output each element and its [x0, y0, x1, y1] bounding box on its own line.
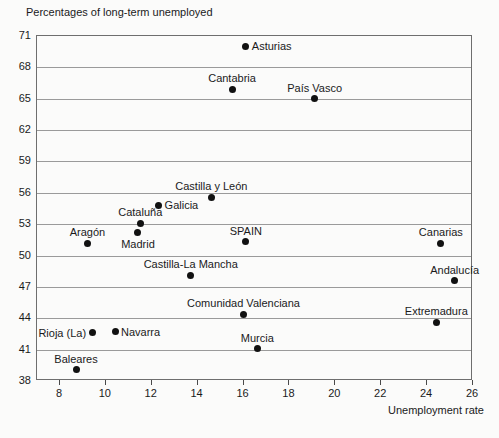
- y-axis-tick-label: 44: [3, 311, 31, 323]
- data-point[interactable]: [112, 328, 119, 335]
- y-axis-tick-labels: 384144475053565962656871: [0, 35, 31, 380]
- x-axis-tick-label: 10: [99, 387, 111, 399]
- data-point[interactable]: [311, 95, 318, 102]
- y-axis-tick-label: 50: [3, 249, 31, 261]
- x-axis-tick-label: 14: [191, 387, 203, 399]
- data-point-label: Aragón: [70, 226, 105, 238]
- x-axis-tick-mark: [243, 380, 244, 385]
- gridline: [37, 318, 471, 319]
- gridline: [37, 193, 471, 194]
- x-axis-tick-label: 16: [236, 387, 248, 399]
- data-point[interactable]: [242, 43, 249, 50]
- data-point-label: Comunidad Valenciana: [187, 297, 300, 309]
- x-axis-tick-label: 22: [374, 387, 386, 399]
- data-point[interactable]: [137, 220, 144, 227]
- x-axis-tick-label: 12: [145, 387, 157, 399]
- data-point-label: Cantabria: [208, 72, 256, 84]
- data-point-label: Asturias: [252, 40, 292, 52]
- x-axis-tick-mark: [380, 380, 381, 385]
- y-axis-tick-label: 71: [3, 29, 31, 41]
- data-point[interactable]: [433, 319, 440, 326]
- x-axis-tick-mark: [151, 380, 152, 385]
- data-point[interactable]: [437, 240, 444, 247]
- plot-area: AsturiasCantabriaPaís VascoCastilla y Le…: [36, 35, 472, 380]
- gridline: [37, 130, 471, 131]
- data-point-label: Navarra: [121, 326, 160, 338]
- data-point[interactable]: [134, 229, 141, 236]
- x-axis-tick-mark: [197, 380, 198, 385]
- x-axis-tick-label: 8: [56, 387, 62, 399]
- data-point[interactable]: [242, 238, 249, 245]
- x-axis-tick-label: 20: [328, 387, 340, 399]
- data-point-label: Andalucía: [430, 264, 479, 276]
- data-point-label: Baleares: [54, 353, 97, 365]
- y-axis-tick-label: 53: [3, 217, 31, 229]
- data-point-label: Castilla-La Mancha: [144, 258, 238, 270]
- data-point-label: Canarias: [419, 226, 463, 238]
- x-axis-tick-mark: [472, 380, 473, 385]
- data-point[interactable]: [84, 240, 91, 247]
- y-axis-tick-label: 59: [3, 154, 31, 166]
- x-axis-title: Unemployment rate: [388, 404, 484, 416]
- y-axis-tick-label: 41: [3, 343, 31, 355]
- y-axis-tick-label: 56: [3, 186, 31, 198]
- data-point[interactable]: [73, 366, 80, 373]
- y-axis-tick-label: 47: [3, 280, 31, 292]
- data-point[interactable]: [229, 86, 236, 93]
- data-point[interactable]: [254, 345, 261, 352]
- x-axis-tick-labels: 8101214161820222426: [0, 380, 499, 404]
- data-point[interactable]: [187, 272, 194, 279]
- gridline: [37, 67, 471, 68]
- data-point[interactable]: [89, 329, 96, 336]
- chart-title: Percentages of long-term unemployed: [26, 6, 213, 18]
- data-point-label: SPAIN: [230, 225, 262, 237]
- x-axis-tick-label: 18: [282, 387, 294, 399]
- x-axis-tick-label: 26: [466, 387, 478, 399]
- data-point-label: País Vasco: [287, 82, 342, 94]
- x-axis-tick-mark: [334, 380, 335, 385]
- y-axis-tick-label: 68: [3, 60, 31, 72]
- data-point-label: Extremadura: [405, 305, 468, 317]
- data-point[interactable]: [208, 194, 215, 201]
- data-point[interactable]: [240, 311, 247, 318]
- y-axis-tick-label: 62: [3, 123, 31, 135]
- data-point-label: Rioja (La): [38, 327, 86, 339]
- gridline: [37, 161, 471, 162]
- gridline: [37, 99, 471, 100]
- x-axis-tick-mark: [59, 380, 60, 385]
- x-axis-tick-mark: [426, 380, 427, 385]
- data-point-label: Murcia: [241, 332, 274, 344]
- y-axis-tick-label: 65: [3, 92, 31, 104]
- data-point-label: Galicia: [165, 199, 199, 211]
- gridline: [37, 287, 471, 288]
- x-axis-tick-label: 24: [420, 387, 432, 399]
- data-point-label: Madrid: [121, 238, 155, 250]
- gridline: [37, 256, 471, 257]
- data-point-label: Cataluña: [118, 206, 162, 218]
- data-point-label: Castilla y León: [175, 180, 247, 192]
- x-axis-tick-mark: [105, 380, 106, 385]
- data-point[interactable]: [451, 277, 458, 284]
- chart-page: Percentages of long-term unemployed Astu…: [0, 0, 499, 438]
- x-axis-tick-mark: [288, 380, 289, 385]
